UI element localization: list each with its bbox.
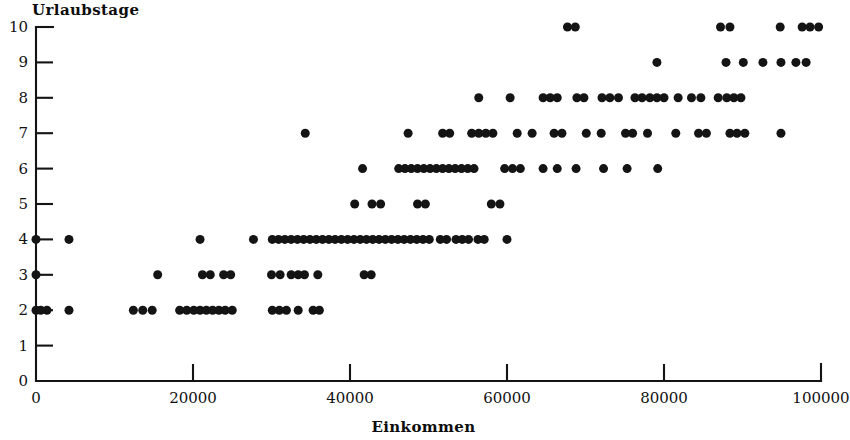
data-points [32, 23, 824, 315]
data-point [605, 93, 614, 102]
data-point [129, 306, 138, 315]
data-point [516, 164, 525, 173]
data-point [733, 129, 742, 138]
data-point [294, 306, 303, 315]
data-point [550, 129, 559, 138]
data-point [553, 93, 562, 102]
data-point [350, 200, 359, 209]
data-point [470, 164, 479, 173]
data-point [614, 93, 623, 102]
y-tick-label: 2 [0, 301, 28, 319]
data-point [725, 23, 734, 32]
data-point [696, 93, 705, 102]
data-point [464, 235, 473, 244]
data-point [196, 235, 205, 244]
x-tick-label: 60000 [483, 389, 531, 407]
data-point [582, 129, 591, 138]
data-point [226, 270, 235, 279]
data-point [404, 129, 413, 138]
data-point [571, 23, 580, 32]
data-point [599, 164, 608, 173]
y-tick-label: 4 [0, 230, 28, 248]
data-point [791, 58, 800, 67]
data-point [503, 235, 512, 244]
data-point [315, 306, 324, 315]
data-point [740, 129, 749, 138]
x-tick-label: 40000 [326, 389, 374, 407]
data-point [442, 235, 451, 244]
data-point [32, 270, 41, 279]
data-point [500, 164, 509, 173]
data-point [358, 164, 367, 173]
data-point [445, 129, 454, 138]
y-tick-label: 7 [0, 124, 28, 142]
data-point [798, 23, 807, 32]
data-point [758, 58, 767, 67]
data-point [674, 93, 683, 102]
y-tick-label: 5 [0, 195, 28, 213]
data-point [228, 306, 237, 315]
data-point [198, 270, 207, 279]
data-point [513, 129, 522, 138]
data-point [628, 129, 637, 138]
data-point [716, 23, 725, 32]
data-point [42, 306, 51, 315]
data-point [638, 93, 647, 102]
data-point [539, 164, 548, 173]
y-tick-label: 8 [0, 89, 28, 107]
data-point [488, 129, 497, 138]
data-point [687, 93, 696, 102]
data-point [802, 58, 811, 67]
data-point [776, 23, 785, 32]
x-tick-label: 80000 [640, 389, 688, 407]
data-point [557, 129, 566, 138]
y-tick-label: 0 [0, 372, 28, 390]
data-point [367, 270, 376, 279]
data-point [474, 93, 483, 102]
data-point [579, 93, 588, 102]
data-point [421, 200, 430, 209]
data-point [814, 23, 823, 32]
data-point [597, 129, 606, 138]
data-point [267, 270, 276, 279]
data-point [702, 129, 711, 138]
x-tick-label: 20000 [169, 389, 217, 407]
data-point [623, 164, 632, 173]
data-point [32, 235, 41, 244]
data-point [313, 270, 322, 279]
data-point [671, 129, 680, 138]
data-point [653, 164, 662, 173]
data-point [694, 129, 703, 138]
data-point [660, 93, 669, 102]
x-tick-label: 100000 [792, 389, 849, 407]
data-point [276, 270, 285, 279]
data-point [148, 306, 157, 315]
data-point [643, 129, 652, 138]
y-tick-label: 3 [0, 266, 28, 284]
data-point [597, 93, 606, 102]
data-point [153, 270, 162, 279]
data-point [206, 270, 215, 279]
x-tick-marks [193, 364, 664, 381]
data-point [806, 23, 815, 32]
data-point [739, 58, 748, 67]
data-point [714, 93, 723, 102]
data-point [495, 200, 504, 209]
data-point [367, 200, 376, 209]
data-point [300, 270, 309, 279]
data-point [64, 306, 73, 315]
data-point [776, 129, 785, 138]
data-point [64, 235, 73, 244]
data-point [508, 164, 517, 173]
data-point [282, 306, 291, 315]
y-tick-marks [36, 62, 53, 345]
data-point [736, 93, 745, 102]
data-point [480, 235, 489, 244]
data-point [553, 164, 562, 173]
y-tick-label: 9 [0, 53, 28, 71]
y-tick-label: 1 [0, 337, 28, 355]
data-point [776, 58, 785, 67]
y-tick-label: 10 [0, 18, 28, 36]
